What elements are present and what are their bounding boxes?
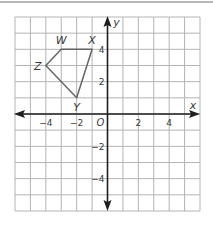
x-tick-label: −4 <box>39 118 53 128</box>
vertex-label-y: Y <box>73 101 81 114</box>
x-tick-label: 2 <box>135 118 141 128</box>
polygon-outline <box>46 49 92 98</box>
y-tick-label: −2 <box>91 142 104 152</box>
vertex-label-x: X <box>87 34 96 47</box>
y-tick-label: 4 <box>99 45 105 55</box>
x-axis-label: x <box>189 99 197 112</box>
x-tick-label: −2 <box>70 118 83 128</box>
vertex-label-z: Z <box>33 60 42 73</box>
quadrilateral-wxyz <box>46 49 92 98</box>
y-tick-label: 2 <box>99 77 105 87</box>
vertex-label-w: W <box>56 34 68 47</box>
labels: xyO−4−22442−2−4WXYZ <box>33 16 197 184</box>
y-axis-label: y <box>112 16 120 29</box>
y-tick-label: −4 <box>91 174 105 184</box>
x-tick-label: 4 <box>166 118 172 128</box>
origin-label: O <box>97 117 105 128</box>
axes <box>14 16 200 211</box>
coordinate-plane: xyO−4−22442−2−4WXYZ <box>0 0 213 228</box>
